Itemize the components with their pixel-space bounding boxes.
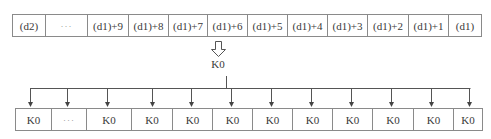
target-cell: K0 (173, 109, 213, 130)
target-cell: K0 (373, 109, 414, 130)
target-cell: K0 (293, 109, 333, 130)
target-cell: K0 (333, 109, 373, 130)
drop-arrows (28, 88, 472, 107)
target-cell: K0 (16, 109, 52, 130)
constant-label: K0 (203, 58, 233, 70)
target-cell: K0 (87, 109, 132, 130)
target-cell: K0 (213, 109, 253, 130)
target-cell: K0 (253, 109, 293, 130)
target-cell-ellipsis: ··· (52, 109, 87, 130)
target-register-row: K0 ··· K0 K0 K0 K0 K0 K0 K0 K0 K0 K0 (15, 108, 483, 131)
target-cell: K0 (132, 109, 173, 130)
hollow-down-arrow-icon (212, 42, 226, 57)
target-cell: K0 (454, 109, 482, 130)
target-cell: K0 (414, 109, 454, 130)
